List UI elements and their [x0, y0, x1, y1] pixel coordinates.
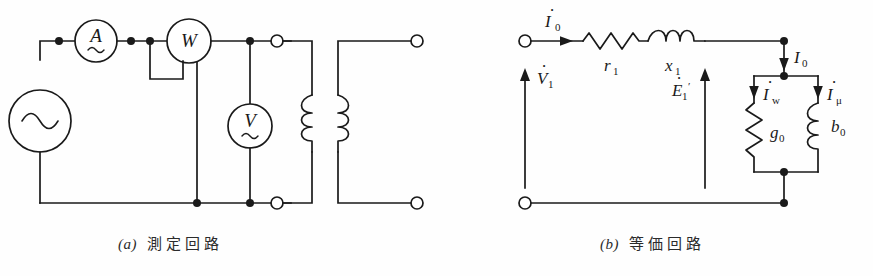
junction-dot: [780, 37, 788, 45]
wire-terminal-to-primary-bottom: [283, 152, 312, 203]
inductor-b0: [808, 103, 819, 172]
label-core-loss-current-Iw: · I w: [762, 73, 780, 106]
label-g0-subscript: 0: [779, 132, 785, 144]
label-Iw-subscript: w: [772, 94, 780, 106]
wattmeter-label: W: [181, 30, 199, 51]
label-E1-prime: ′: [688, 80, 690, 92]
wire-secondary-bottom-lead: [338, 152, 411, 203]
phasor-arrow-V1-head: [520, 68, 530, 81]
label-conductance-g0: g 0: [770, 123, 785, 144]
figure-container: A W V: [0, 0, 873, 276]
terminal-open-bottom-right: [411, 197, 423, 209]
label-E1-subscript: 1: [682, 90, 688, 102]
label-I0-subscript: 0: [555, 21, 561, 33]
terminal-input-bottom: [519, 197, 531, 209]
label-magnetizing-current-Imu: · I μ: [826, 73, 842, 106]
terminal-open-bottom-left: [271, 197, 283, 209]
label-b0-symbol: b: [831, 117, 840, 136]
label-branch-I0-symbol: I: [793, 48, 801, 67]
label-b0-subscript: 0: [840, 126, 846, 138]
panel-a-measurement-circuit: A W V: [9, 19, 423, 209]
phasor-arrow-E1-head: [700, 68, 710, 81]
wire-terminal-to-primary-top: [283, 41, 312, 95]
label-Imu-subscript: μ: [836, 94, 842, 106]
terminal-input-top: [519, 35, 531, 47]
junction-dot: [780, 72, 788, 80]
caption-b-text: 等価回路: [629, 232, 705, 253]
current-arrow-I0-input: [560, 36, 573, 46]
junction-dot: [246, 37, 254, 45]
junction-dot: [127, 37, 135, 45]
terminal-open-top-left: [271, 35, 283, 47]
junction-dot: [193, 199, 201, 207]
label-emf-E1: · E 1 ′: [671, 69, 690, 102]
caption-a-text: 測定回路: [147, 232, 223, 253]
caption-panel-b: (b) 等価回路: [600, 232, 705, 253]
transformer-secondary-coil: [338, 95, 349, 152]
label-susceptance-b0: b 0: [831, 117, 846, 138]
label-resistance-r1: r 1: [604, 56, 619, 77]
caption-b-marker: (b): [600, 236, 619, 253]
label-x1-symbol: x: [664, 56, 673, 75]
terminal-open-top-right: [411, 35, 423, 47]
current-arrow-Imu: [813, 86, 823, 99]
junction-dot: [780, 199, 788, 207]
current-arrow-Iw: [749, 86, 759, 99]
label-branch-current-I0: I 0: [793, 48, 808, 69]
caption-a-marker: (a): [118, 236, 137, 253]
label-V1-subscript: 1: [548, 78, 554, 90]
caption-panel-a: (a) 測定回路: [118, 232, 223, 253]
resistor-g0: [746, 103, 762, 172]
label-input-current-I0: · I 0: [544, 1, 561, 33]
junction-dot: [146, 37, 154, 45]
label-r1-symbol: r: [604, 56, 611, 75]
current-arrow-I0-branch: [779, 58, 789, 71]
ammeter-label: A: [88, 25, 102, 46]
transformer-primary-coil: [302, 95, 313, 152]
label-g0-symbol: g: [770, 123, 779, 142]
junction-dot: [55, 37, 63, 45]
inductor-x1: [648, 31, 705, 42]
resistor-r1: [583, 33, 648, 49]
wire-secondary-top-lead: [338, 41, 411, 95]
junction-dot: [780, 168, 788, 176]
panel-b-equivalent-circuit: · I 0 r 1 x 1 · V 1 · E: [519, 1, 846, 209]
junction-dot: [246, 199, 254, 207]
label-r1-subscript: 1: [613, 65, 619, 77]
label-branch-I0-subscript: 0: [802, 57, 808, 69]
label-voltage-V1: · V 1: [537, 57, 554, 90]
